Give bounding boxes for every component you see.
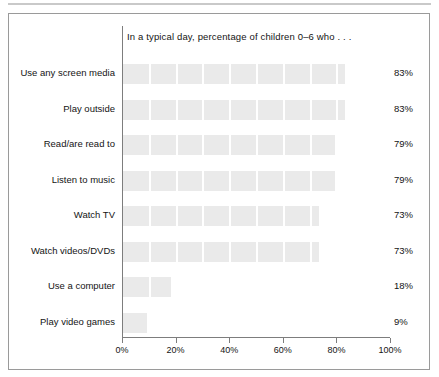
bar-separator — [229, 242, 231, 262]
bar-separator — [310, 64, 312, 84]
bar — [123, 64, 345, 84]
bar-value-label: 9% — [394, 316, 408, 327]
bar-separator — [310, 206, 312, 226]
category-label: Play outside — [63, 103, 115, 114]
top-divider-rule — [8, 3, 431, 5]
bar-value-label: 79% — [394, 138, 413, 149]
bar-value-label: 18% — [394, 280, 413, 291]
bar — [123, 100, 345, 120]
bar-value-label: 83% — [394, 103, 413, 114]
category-label: Read/are read to — [44, 138, 115, 149]
x-axis-tick-label: 20% — [167, 345, 185, 355]
bar-value-label: 73% — [394, 209, 413, 220]
bar-separator — [149, 206, 151, 226]
bar-separator — [283, 206, 285, 226]
bar-separator — [202, 64, 204, 84]
bar-separator — [202, 135, 204, 155]
bar-separator — [149, 242, 151, 262]
bar-separator — [149, 171, 151, 191]
bar-separator — [229, 100, 231, 120]
bar-separator — [202, 171, 204, 191]
bar-value-label: 79% — [394, 174, 413, 185]
bar-separator — [256, 135, 258, 155]
bar-row: Watch TV73% — [0, 198, 439, 234]
bar-separator — [176, 171, 178, 191]
bar-separator — [283, 135, 285, 155]
bar-row: Use any screen media83% — [0, 56, 439, 92]
category-label: Listen to music — [52, 174, 115, 185]
bar-separator — [176, 206, 178, 226]
bar-value-label: 83% — [394, 67, 413, 78]
x-axis-tick-label: 60% — [274, 345, 292, 355]
bar-separator — [256, 171, 258, 191]
bar-value-label: 73% — [394, 245, 413, 256]
category-label: Play video games — [40, 316, 115, 327]
bar-separator — [310, 135, 312, 155]
bar-separator — [283, 171, 285, 191]
bar-separator — [176, 100, 178, 120]
bar — [123, 313, 147, 333]
bar-separator — [256, 242, 258, 262]
bar-row: Play outside83% — [0, 92, 439, 128]
bar-separator — [149, 100, 151, 120]
bar-separator — [256, 100, 258, 120]
bar-row: Read/are read to79% — [0, 127, 439, 163]
bar-separator — [229, 64, 231, 84]
bar-separator — [229, 135, 231, 155]
bar-row: Play video games9% — [0, 305, 439, 341]
bar-separator — [283, 64, 285, 84]
x-axis-tick-label: 40% — [220, 345, 238, 355]
category-label: Use any screen media — [20, 67, 115, 78]
bar-separator — [336, 100, 338, 120]
bar-separator — [256, 64, 258, 84]
bar-separator — [336, 64, 338, 84]
bar-separator — [229, 206, 231, 226]
bar-separator — [176, 64, 178, 84]
bar-separator — [202, 242, 204, 262]
bar-separator — [229, 171, 231, 191]
bar-separator — [149, 277, 151, 297]
bar-row: Use a computer18% — [0, 269, 439, 305]
bar — [123, 277, 171, 297]
bar — [123, 135, 335, 155]
bar-separator — [283, 242, 285, 262]
x-axis-tick-label: 0% — [115, 345, 128, 355]
bar-row: Listen to music79% — [0, 163, 439, 199]
bar-separator — [283, 100, 285, 120]
bar-separator — [176, 242, 178, 262]
bar-separator — [202, 206, 204, 226]
bar-separator — [310, 171, 312, 191]
bar-row: Watch videos/DVDs73% — [0, 234, 439, 270]
bar-separator — [202, 100, 204, 120]
bar-separator — [149, 135, 151, 155]
bar — [123, 171, 335, 191]
bar-separator — [256, 206, 258, 226]
bar — [123, 242, 319, 262]
bar-separator — [310, 242, 312, 262]
category-label: Use a computer — [48, 280, 115, 291]
bar-separator — [176, 135, 178, 155]
bar-separator — [149, 64, 151, 84]
category-label: Watch TV — [74, 209, 115, 220]
x-axis-tick-label: 80% — [327, 345, 345, 355]
chart-title: In a typical day, percentage of children… — [127, 31, 351, 42]
bar — [123, 206, 319, 226]
figure-container: In a typical day, percentage of children… — [0, 0, 439, 377]
category-label: Watch videos/DVDs — [31, 245, 115, 256]
x-axis-tick-label: 100% — [378, 345, 401, 355]
bar-separator — [310, 100, 312, 120]
